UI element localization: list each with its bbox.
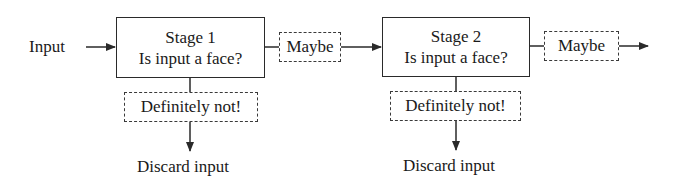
stage-2-maybe-label: Maybe bbox=[558, 36, 605, 56]
stage-2-reject-box: Definitely not! bbox=[390, 91, 521, 121]
stage-1-box: Stage 1 Is input a face? bbox=[116, 17, 265, 78]
stage-1-question: Is input a face? bbox=[139, 48, 242, 69]
stage-2-maybe-box: Maybe bbox=[544, 31, 619, 61]
cascade-diagram: Input Stage 1 Is input a face? Maybe Def… bbox=[0, 0, 676, 190]
stage-1-maybe-box: Maybe bbox=[279, 32, 341, 62]
stage-2-reject-label: Definitely not! bbox=[405, 96, 506, 116]
stage-2-box: Stage 2 Is input a face? bbox=[382, 17, 530, 77]
stage-1-title: Stage 1 bbox=[165, 27, 216, 48]
stage-2-question: Is input a face? bbox=[404, 47, 507, 68]
stage-2-title: Stage 2 bbox=[431, 26, 482, 47]
stage-1-reject-label: Definitely not! bbox=[141, 97, 242, 117]
stage-1-reject-box: Definitely not! bbox=[124, 92, 258, 122]
stage-2-discard-label: Discard input bbox=[403, 156, 495, 176]
stage-1-maybe-label: Maybe bbox=[286, 37, 333, 57]
connector-lines bbox=[0, 0, 676, 190]
stage-1-discard-label: Discard input bbox=[137, 157, 229, 177]
input-label: Input bbox=[29, 37, 65, 57]
